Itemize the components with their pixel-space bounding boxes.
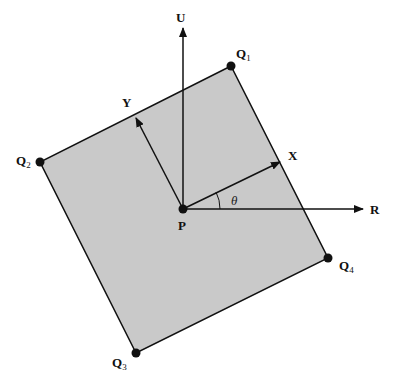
label-p: P xyxy=(178,218,186,233)
label-y: Y xyxy=(122,95,132,110)
label-x: X xyxy=(288,148,298,163)
point-q1 xyxy=(227,62,236,71)
label-theta: θ xyxy=(231,193,238,208)
label-q4: Q4 xyxy=(339,258,354,275)
point-q3 xyxy=(132,349,141,358)
rotated-square-diagram: U R X Y P θ Q1 Q2 Q3 Q4 xyxy=(0,0,394,379)
label-u: U xyxy=(176,10,186,25)
label-q3: Q3 xyxy=(112,355,127,372)
label-q1: Q1 xyxy=(236,46,251,63)
point-p xyxy=(179,205,188,214)
point-q4 xyxy=(324,254,333,263)
label-q2: Q2 xyxy=(16,153,31,170)
label-r: R xyxy=(370,202,380,217)
point-q2 xyxy=(36,158,45,167)
